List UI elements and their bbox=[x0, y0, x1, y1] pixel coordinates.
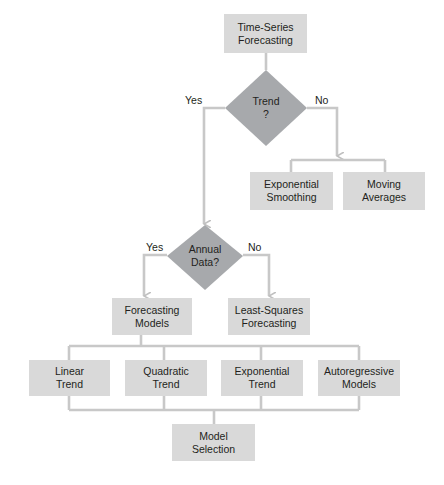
edge-label-trend-no: No bbox=[315, 94, 328, 106]
edge-label-annual-yes: Yes bbox=[146, 241, 163, 253]
node-autoregressive-models: Autoregressive Models bbox=[318, 360, 400, 396]
connector-trend-yes bbox=[204, 108, 225, 224]
node-quadratic-trend: Quadratic Trend bbox=[125, 360, 207, 396]
node-exponential-smoothing: Exponential Smoothing bbox=[250, 172, 333, 210]
node-least-squares-forecasting: Least-Squares Forecasting bbox=[228, 298, 310, 335]
node-linear-trend: Linear Trend bbox=[29, 360, 110, 396]
connector-trend-no bbox=[307, 108, 337, 156]
flowchart-canvas: Time-Series Forecasting Trend ? Yes No E… bbox=[0, 0, 444, 485]
edge-label-annual-no: No bbox=[248, 241, 261, 253]
node-time-series-forecasting: Time-Series Forecasting bbox=[224, 14, 307, 53]
connector-annual-yes bbox=[144, 255, 167, 296]
node-trend-decision: Trend ? bbox=[236, 92, 296, 124]
node-annual-data-decision: Annual Data? bbox=[175, 240, 235, 272]
node-forecasting-models: Forecasting Models bbox=[112, 298, 192, 335]
node-exponential-trend: Exponential Trend bbox=[221, 360, 303, 396]
connector-annual-no bbox=[243, 255, 269, 296]
node-model-selection: Model Selection bbox=[172, 424, 255, 461]
node-moving-averages: Moving Averages bbox=[343, 172, 425, 210]
edge-label-trend-yes: Yes bbox=[185, 94, 202, 106]
